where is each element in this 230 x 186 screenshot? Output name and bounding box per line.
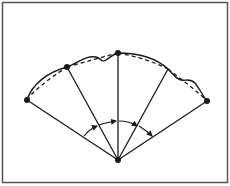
point-3 [115,50,121,56]
ray-1 [27,100,118,160]
apex-point [115,157,121,163]
ray-2 [67,67,118,160]
chord-2 [67,53,118,67]
angle-arrow-2 [99,121,116,125]
point-5 [204,98,210,104]
dashed-chords [27,53,207,101]
diagram-canvas [0,0,230,186]
rays [27,53,207,160]
ray-4 [118,69,168,160]
boundary-curve [27,53,207,101]
vertex-dots [24,50,210,163]
angle-arrow-1 [84,126,97,136]
diagram-figure [0,0,230,186]
point-1 [24,97,30,103]
chord-1 [27,67,67,100]
angle-arrow-3 [119,121,137,126]
ray-5 [118,101,207,160]
angle-arrow-4 [139,126,152,136]
point-2 [64,64,70,70]
chord-4 [168,69,207,101]
